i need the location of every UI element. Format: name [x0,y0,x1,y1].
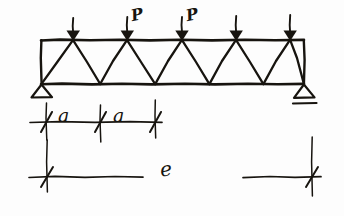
web-diagonal-8 [236,40,263,84]
load-arrow-4 [230,16,243,41]
web-diagonal-5 [155,40,181,84]
left-end-post [41,40,42,84]
span-dim-label: e [159,156,173,181]
span-dimension [29,137,321,196]
load-arrow-5 [284,15,297,41]
web-diagonal-9 [263,40,289,84]
panel-ext-line-1 [46,103,47,140]
panel-ext-line-2 [100,105,101,142]
span-dim-line-right [243,177,321,178]
web-diagonal-10 [290,40,304,84]
web-diagonal-4 [127,40,155,84]
truss-sketch-svg [0,0,344,216]
web-diagonal-3 [100,40,127,84]
web-diagonal-7 [209,40,235,84]
truss-structure [41,40,305,85]
left-pin-support [32,85,53,98]
load-arrows [67,15,297,41]
panel-dim-label-a-1: a [58,104,69,126]
panel-dim-line [30,122,162,123]
load-arrow-1 [67,18,81,41]
panel-dimension [30,100,162,142]
right-end-post [304,40,305,84]
span-ext-line-right [312,137,313,196]
panel-ext-line-3 [155,100,156,138]
web-diagonal-2 [73,40,100,84]
ground-line [293,103,317,104]
right-roller-support [293,85,317,104]
span-ext-line-left [47,140,48,192]
panel-dim-label-a-2: a [113,104,124,126]
top-chord [41,40,304,41]
web-diagonal-1 [42,40,73,84]
web-diagonal-6 [182,40,209,84]
truss-diagram-canvas: P P a a e [0,0,344,216]
